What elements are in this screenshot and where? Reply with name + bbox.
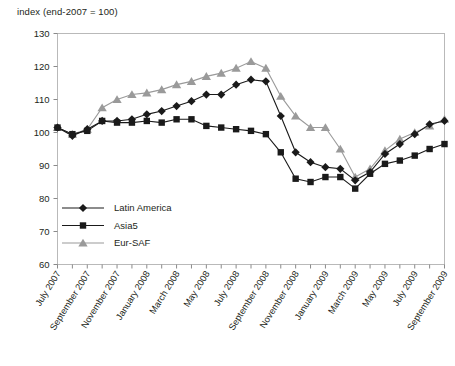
y-tick-label: 110 [34, 94, 49, 105]
data-point-marker [277, 112, 285, 120]
data-point-marker [114, 119, 120, 125]
data-point-marker [203, 123, 209, 129]
x-axis-ticks: July 2007September 2007November 2007Janu… [33, 265, 449, 333]
data-point-marker [263, 131, 269, 137]
data-point-marker [441, 141, 447, 147]
legend-item-eur-saf[interactable]: Eur-SAF [62, 237, 151, 248]
data-point-marker [99, 118, 105, 124]
data-point-marker [172, 102, 180, 110]
data-point-marker [352, 185, 358, 191]
data-point-marker [440, 117, 448, 125]
line-chart-plot: 60708090100110120130 July 2007September … [0, 0, 455, 366]
data-point-marker [306, 158, 314, 166]
data-point-marker [367, 171, 373, 177]
data-point-marker [292, 148, 300, 156]
legend-label: Asia5 [114, 220, 138, 231]
y-tick-label: 90 [39, 160, 50, 171]
data-point-marker [217, 69, 226, 77]
data-point-marker [80, 222, 86, 228]
x-tick-label: July 2008 [212, 269, 241, 308]
data-point-marker [276, 92, 285, 100]
data-point-marker [69, 131, 75, 137]
y-tick-label: 80 [39, 193, 50, 204]
data-point-marker [217, 90, 225, 98]
data-point-marker [84, 128, 90, 134]
legend-item-asia5[interactable]: Asia5 [62, 220, 138, 231]
data-point-marker [79, 204, 87, 212]
y-tick-label: 70 [39, 226, 50, 237]
data-point-marker [246, 57, 255, 65]
data-point-marker [307, 179, 313, 185]
data-point-marker [158, 119, 164, 125]
data-point-marker [261, 64, 270, 72]
data-point-marker [412, 152, 418, 158]
data-point-marker [173, 116, 179, 122]
data-point-marker [291, 112, 300, 120]
x-tick-label: July 2009 [391, 269, 420, 308]
data-point-marker [292, 176, 298, 182]
data-point-marker [337, 174, 343, 180]
data-point-marker [426, 146, 432, 152]
data-point-marker [54, 124, 60, 130]
data-point-marker [144, 118, 150, 124]
x-tick-label: May 2008 [182, 269, 212, 309]
legend-label: Eur-SAF [114, 237, 151, 248]
data-point-marker [158, 107, 166, 115]
x-tick-label: May 2009 [360, 269, 390, 309]
y-tick-label: 130 [34, 28, 50, 39]
data-point-marker [231, 64, 240, 72]
data-point-marker [157, 85, 166, 93]
data-point-marker [262, 77, 270, 85]
y-tick-label: 100 [34, 127, 50, 138]
x-tick-label: March 2009 [326, 269, 360, 315]
chart-legend: Latin AmericaAsia5Eur-SAF [62, 202, 172, 248]
data-point-marker [248, 128, 254, 134]
data-point-marker [247, 76, 255, 84]
y-tick-label: 60 [39, 259, 50, 270]
legend-item-latin-america[interactable]: Latin America [62, 202, 172, 213]
data-point-marker [187, 77, 196, 85]
data-point-marker [278, 149, 284, 155]
data-point-marker [321, 163, 329, 171]
data-point-marker [322, 174, 328, 180]
data-point-marker [202, 90, 210, 98]
data-point-marker [232, 81, 240, 89]
data-point-marker [143, 110, 151, 118]
data-point-marker [112, 95, 121, 103]
data-point-marker [218, 124, 224, 130]
x-tick-label: March 2008 [148, 269, 182, 315]
chart-figure: index (end-2007 = 100) 60708090100110120… [0, 0, 455, 366]
data-series-group [53, 57, 449, 192]
data-point-marker [382, 161, 388, 167]
x-tick-label: July 2007 [33, 269, 62, 308]
data-point-marker [233, 126, 239, 132]
data-point-marker [129, 119, 135, 125]
y-axis-ticks: 60708090100110120130 [34, 28, 58, 270]
data-point-marker [187, 97, 195, 105]
data-point-marker [397, 157, 403, 163]
data-point-marker [98, 103, 107, 111]
data-point-marker [188, 116, 194, 122]
legend-label: Latin America [114, 202, 172, 213]
y-tick-label: 120 [34, 61, 50, 72]
data-point-marker [336, 145, 345, 153]
